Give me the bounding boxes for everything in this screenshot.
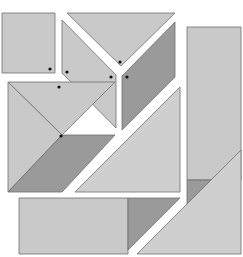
dot-left-center-icon [59, 134, 62, 137]
dot-parallelogram-left-icon [65, 70, 68, 73]
dot-parallelogram-right-icon [125, 75, 128, 78]
rectangle-tall-right-piece[interactable] [187, 27, 241, 180]
dot-left-top-icon [57, 85, 60, 88]
rectangle-bottom-piece[interactable] [19, 198, 128, 254]
dot-square-icon [48, 67, 51, 70]
puzzle-canvas [0, 0, 243, 257]
dot-parallelogram-left-right-icon [109, 75, 112, 78]
square-top-left-piece[interactable] [2, 13, 55, 73]
dot-triangle-top-icon [118, 60, 121, 63]
tangram-puzzle [0, 0, 243, 257]
